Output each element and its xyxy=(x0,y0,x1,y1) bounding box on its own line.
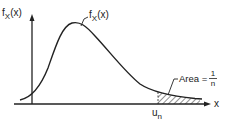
threshold-label: un xyxy=(152,107,162,121)
area-denominator: n xyxy=(211,79,215,88)
area-label: Area = xyxy=(179,73,208,84)
pdf-diagram: fX(x) fX(x) x un Area = 1 n xyxy=(0,0,226,122)
y-axis-label: fX(x) xyxy=(2,7,22,21)
x-axis-arrow-icon xyxy=(204,102,211,107)
density-curve xyxy=(20,23,202,100)
curve-label: fX(x) xyxy=(89,9,109,23)
curve-label-leader xyxy=(81,17,88,26)
area-label-leader xyxy=(168,79,178,95)
x-axis-label: x xyxy=(214,98,219,109)
y-axis-arrow-icon xyxy=(30,14,35,21)
area-numerator: 1 xyxy=(211,69,216,78)
